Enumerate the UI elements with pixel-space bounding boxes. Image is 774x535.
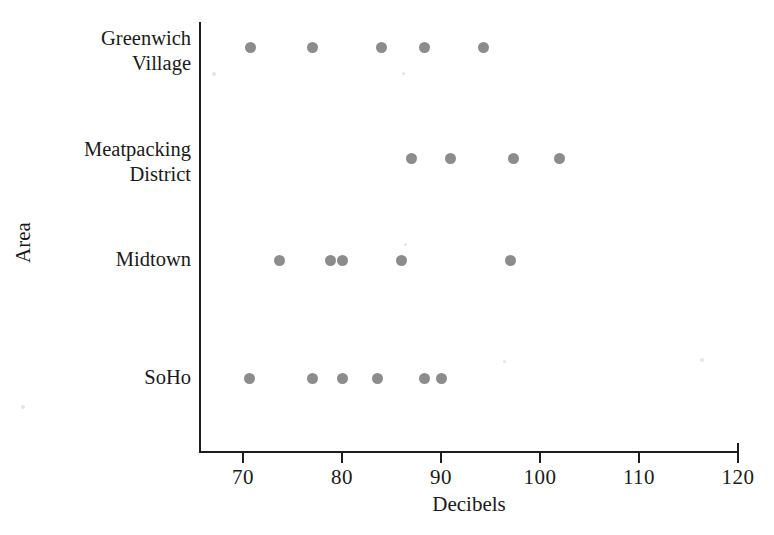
data-point <box>419 373 430 384</box>
data-point <box>406 153 417 164</box>
category-label: SoHo <box>144 365 191 390</box>
data-point <box>325 255 336 266</box>
scan-speckle <box>700 358 704 362</box>
x-axis-tick <box>440 453 442 463</box>
x-axis-tick <box>539 453 541 463</box>
x-axis-tick-label: 70 <box>208 464 278 490</box>
data-point <box>337 255 348 266</box>
data-point <box>445 153 456 164</box>
data-point <box>245 42 256 53</box>
dot-plot-chart: 708090100110120 Greenwich VillageMeatpac… <box>0 0 774 535</box>
scan-speckle <box>404 243 407 246</box>
x-axis-tick <box>638 453 640 463</box>
data-point <box>554 153 565 164</box>
data-point <box>396 255 407 266</box>
data-point <box>436 373 447 384</box>
x-axis-line <box>199 451 739 453</box>
x-axis-tick <box>242 453 244 463</box>
data-point <box>337 373 348 384</box>
data-point <box>419 42 430 53</box>
x-axis-tick-label: 120 <box>703 464 773 490</box>
data-point <box>244 373 255 384</box>
data-point <box>508 153 519 164</box>
scan-speckle <box>21 405 25 409</box>
category-label: Midtown <box>116 247 191 272</box>
data-point <box>274 255 285 266</box>
scan-speckle <box>402 72 405 75</box>
category-label: Greenwich Village <box>101 26 191 76</box>
scan-speckle <box>503 360 506 363</box>
data-point <box>376 42 387 53</box>
x-axis-tick <box>737 453 739 463</box>
x-axis-tick-label: 90 <box>406 464 476 490</box>
data-point <box>505 255 516 266</box>
x-axis-tick-label: 100 <box>505 464 575 490</box>
x-axis-tick-label: 80 <box>307 464 377 490</box>
data-point <box>478 42 489 53</box>
data-point <box>307 42 318 53</box>
category-label: Meatpacking District <box>84 137 191 187</box>
y-axis-line <box>199 22 201 453</box>
x-axis-tick <box>341 453 343 463</box>
x-axis-right-endcap <box>737 443 739 452</box>
x-axis-tick-label: 110 <box>604 464 674 490</box>
data-point <box>307 373 318 384</box>
y-axis-title: Area <box>11 198 36 288</box>
x-axis-title: Decibels <box>199 492 739 517</box>
x-axis-left-endcap <box>199 443 201 452</box>
scan-speckle <box>212 72 216 76</box>
data-point <box>372 373 383 384</box>
